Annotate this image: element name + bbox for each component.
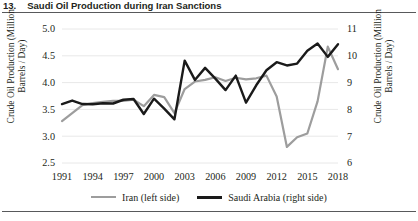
y-axis-title-left: Crude Oil Production (Million Barrels / … bbox=[6, 2, 28, 130]
svg-text:2012: 2012 bbox=[266, 171, 286, 182]
legend-swatch-saudi-icon bbox=[197, 196, 222, 199]
svg-text:2018: 2018 bbox=[328, 171, 348, 182]
y-axis-tick-labels-right: 67891011 bbox=[347, 23, 357, 168]
svg-text:8: 8 bbox=[347, 104, 352, 115]
svg-text:4.5: 4.5 bbox=[42, 50, 55, 61]
svg-text:2006: 2006 bbox=[205, 171, 225, 182]
svg-text:10: 10 bbox=[347, 50, 357, 61]
legend-label-iran: Iran (left side) bbox=[122, 192, 179, 203]
svg-text:2003: 2003 bbox=[174, 171, 194, 182]
chart-plot-area: 2.53.03.54.04.55.0 67891011 199119941997… bbox=[0, 16, 418, 186]
svg-text:11: 11 bbox=[347, 23, 357, 34]
legend-label-saudi: Saudi Arabia (right side) bbox=[228, 192, 327, 203]
y-axis-tick-labels-left: 2.53.03.54.04.55.0 bbox=[42, 23, 55, 168]
svg-text:1997: 1997 bbox=[113, 171, 133, 182]
svg-text:3.0: 3.0 bbox=[42, 131, 55, 142]
divider-bottom bbox=[2, 211, 416, 212]
legend-item-saudi: Saudi Arabia (right side) bbox=[197, 192, 327, 203]
svg-text:2.5: 2.5 bbox=[42, 157, 55, 168]
svg-text:2015: 2015 bbox=[297, 171, 317, 182]
line-chart-svg: 2.53.03.54.04.55.0 67891011 199119941997… bbox=[0, 16, 418, 186]
svg-text:1991: 1991 bbox=[52, 171, 72, 182]
chart-series-lines bbox=[62, 43, 338, 146]
svg-text:1994: 1994 bbox=[82, 171, 102, 182]
svg-text:2000: 2000 bbox=[144, 171, 164, 182]
legend-item-iran: Iran (left side) bbox=[91, 192, 179, 203]
svg-text:6: 6 bbox=[347, 157, 352, 168]
figure-exhibit: 13. Saudi Oil Production during Iran San… bbox=[0, 0, 418, 221]
legend-swatch-iran-icon bbox=[91, 196, 116, 198]
page-title: Saudi Oil Production during Iran Sanctio… bbox=[27, 0, 221, 11]
divider-top bbox=[2, 12, 416, 13]
svg-text:9: 9 bbox=[347, 77, 352, 88]
svg-text:7: 7 bbox=[347, 131, 352, 142]
chart-legend: Iran (left side) Saudi Arabia (right sid… bbox=[0, 188, 418, 206]
y-axis-title-right: Crude Oil Production (Million Barrels / … bbox=[373, 2, 395, 130]
svg-text:2009: 2009 bbox=[236, 171, 256, 182]
gridlines bbox=[62, 29, 338, 163]
x-axis-tick-labels: 1991199419972000200320062009201220152018 bbox=[52, 171, 348, 182]
svg-text:5.0: 5.0 bbox=[42, 23, 55, 34]
svg-text:3.5: 3.5 bbox=[42, 104, 55, 115]
svg-text:4.0: 4.0 bbox=[42, 77, 55, 88]
